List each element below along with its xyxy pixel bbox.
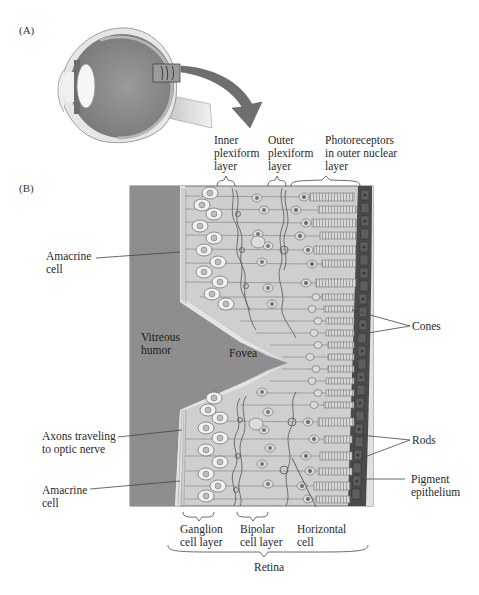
fovea-label: Fovea [229,347,257,360]
inner-plexiform-label: Inner plexiform layer [214,134,259,173]
vitreous-humor-label: Vitreous humor [141,331,180,357]
axons-label: Axons traveling to optic nerve [42,430,116,456]
rods-label: Rods [412,434,436,447]
horizontal-cell-label: Horizontal cell [297,523,346,549]
cones-label: Cones [412,320,441,333]
pigment-epithelium-label: Pigment epithelium [411,473,460,499]
panel-a-label: (A) [19,24,34,36]
amacrine-cell-label-bottom: Amacrine cell [42,484,87,510]
retina-label: Retina [254,561,284,574]
photoreceptors-label: Photoreceptors in outer nuclear layer [325,134,397,173]
outer-plexiform-label: Outer plexiform layer [268,134,313,173]
bipolar-cell-layer-label: Bipolar cell layer [240,523,282,549]
ganglion-cell-layer-label: Ganglion cell layer [180,523,223,549]
eye-illustration [58,28,262,143]
panel-b-label: (B) [19,182,34,194]
amacrine-cell-label-top: Amacrine cell [46,250,91,276]
